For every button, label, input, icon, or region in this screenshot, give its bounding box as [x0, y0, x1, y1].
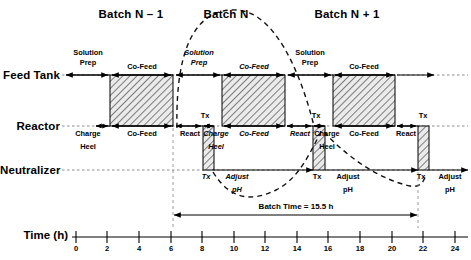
time-tick-label-12: 12	[261, 245, 269, 253]
row-label-neutralizer: Neutralizer	[0, 164, 60, 176]
tx-marker-reactor-1: Tx	[201, 112, 210, 120]
time-tick-label-2: 2	[105, 245, 109, 253]
feed-phase-solution-prep-2-line1: Solution	[184, 49, 214, 57]
neutralizer-phase-1-line2: pH	[232, 186, 242, 194]
cofeed-block-prev	[110, 75, 173, 126]
batch-time-annotation: Batch Time = 15.5 h	[259, 203, 334, 211]
time-tick-label-16: 16	[324, 245, 332, 253]
neutralizer-phase-3-line2: pH	[445, 186, 455, 194]
neutralizer-phase-2-line1: Adjust	[337, 173, 360, 181]
feed-phase-solution-prep-1-line1: Solution	[73, 49, 103, 57]
tx-marker-neutralizer-3: Tx	[417, 173, 426, 181]
reactor-phase-charge-2-line2: Heel	[208, 143, 224, 151]
time-tick-label-24: 24	[451, 245, 459, 253]
batch-title-current: Batch N	[204, 8, 249, 20]
reactor-phase-cofeed-2: Co-Feed	[239, 130, 269, 138]
neutralizer-phase-2-line2: pH	[343, 186, 353, 194]
time-tick-label-14: 14	[293, 245, 301, 253]
tx-marker-reactor-2: Tx	[312, 112, 321, 120]
reactor-phase-charge-2-line1: Charge	[203, 130, 228, 138]
feed-phase-solution-prep-1-line2: Prep	[80, 59, 96, 67]
time-tick-label-8: 8	[200, 245, 204, 253]
cofeed-blocks	[110, 75, 395, 126]
time-tick-label-10: 10	[230, 245, 238, 253]
time-tick-label-20: 20	[388, 245, 396, 253]
time-axis-title: Time (h)	[0, 229, 68, 241]
feed-phase-cofeed-2: Co-Feed	[239, 63, 269, 71]
reactor-phase-charge-1-line2: Heel	[80, 143, 96, 151]
cofeed-block-next	[333, 75, 395, 126]
reactor-phase-charge-1-line1: Charge	[75, 130, 100, 138]
row-label-reactor: Reactor	[0, 120, 60, 132]
time-tick-label-6: 6	[169, 245, 173, 253]
reactor-phase-charge-3-line1: Charge	[314, 130, 339, 138]
feed-phase-cofeed-3: Co-Feed	[349, 63, 379, 71]
batch-title-prev: Batch N – 1	[99, 8, 164, 20]
time-tick-label-0: 0	[74, 245, 78, 253]
batch-title-next: Batch N + 1	[314, 8, 379, 20]
time-axis	[72, 231, 468, 243]
feed-phase-solution-prep-2-line2: Prep	[191, 59, 207, 67]
reactor-phase-cofeed-3: Co-Feed	[349, 130, 379, 138]
neutralizer-phase-3-line1: Adjust	[439, 173, 462, 181]
cofeed-block-cur	[222, 75, 285, 126]
reactor-phase-react-3: React	[396, 130, 416, 138]
time-tick-label-4: 4	[137, 245, 141, 253]
time-tick-label-18: 18	[356, 245, 364, 253]
feed-phase-solution-prep-3-line1: Solution	[295, 49, 325, 57]
tx-marker-neutralizer-2: Tx	[313, 173, 322, 181]
time-tick-label-22: 22	[419, 245, 427, 253]
neutralizer-phase-1-line1: Adjust	[226, 173, 249, 181]
transfer-curve-lower-1	[213, 130, 322, 197]
reactor-phase-charge-3-line2: Heel	[319, 143, 335, 151]
tx-marker-neutralizer-1: Tx	[202, 173, 211, 181]
feed-phase-cofeed-1: Co-Feed	[127, 63, 157, 71]
reactor-phase-react-2: React	[290, 130, 310, 138]
charge-heel-block-3	[418, 126, 429, 170]
tx-marker-reactor-3: Tx	[419, 112, 428, 120]
reactor-phase-cofeed-1: Co-Feed	[127, 130, 157, 138]
reactor-phase-react-1: React	[180, 130, 200, 138]
feed-phase-solution-prep-3-line2: Prep	[302, 59, 318, 67]
row-label-feed-tank: Feed Tank	[0, 69, 60, 81]
